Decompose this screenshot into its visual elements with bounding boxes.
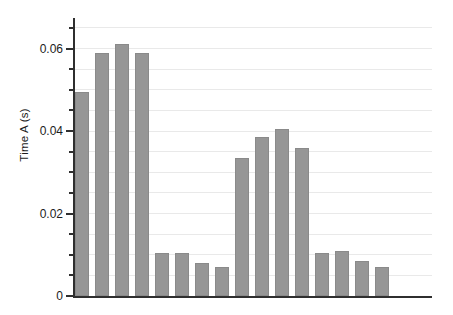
y-axis-minor-tick [69,68,73,70]
y-axis-tick-label: 0.02 [13,208,63,220]
gridline [75,27,432,28]
bar [115,44,129,296]
bar [275,129,289,296]
plot-area: 00.020.040.06 [73,18,432,298]
y-axis-minor-tick [69,274,73,276]
bar [135,53,149,296]
y-axis-minor-tick [69,89,73,91]
y-axis-minor-tick [69,109,73,111]
bar [155,253,169,296]
y-axis-minor-tick [69,171,73,173]
y-axis-major-tick [66,130,73,132]
bar [375,267,389,296]
y-axis-minor-tick [69,151,73,153]
y-axis-minor-tick [69,192,73,194]
bar [355,261,369,296]
bar-chart-figure: Time A (s) 00.020.040.06 [0,0,453,315]
bar [315,253,329,296]
bar [195,263,209,296]
y-axis-tick-label: 0 [13,290,63,302]
y-axis-major-tick [66,213,73,215]
y-axis-minor-tick [69,254,73,256]
y-axis-major-tick [66,48,73,50]
bar [295,148,309,296]
bar [95,53,109,296]
bar [255,137,269,296]
bar [335,251,349,296]
bar [75,92,89,296]
bar [215,267,229,296]
bar [175,253,189,296]
y-axis-tick-label: 0.06 [13,43,63,55]
y-axis-minor-tick [69,27,73,29]
y-axis-minor-tick [69,233,73,235]
bar [235,158,249,296]
y-axis-major-tick [66,295,73,297]
y-axis-tick-label: 0.04 [13,125,63,137]
